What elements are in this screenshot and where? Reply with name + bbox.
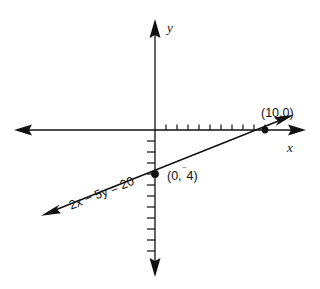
y-axis [147,19,161,277]
point-label-x-intercept: (10,0) [261,106,294,120]
svg-text:(0,⁻4): (0,⁻4) [167,164,198,183]
x-axis-ticks [166,125,265,131]
y-intercept-prefix: (0, [167,169,182,183]
coordinate-plane-figure: x y (10,0) (0,⁻4) 2x − 5y = 20 [0,0,320,289]
line-lower-left-arrowhead [41,205,61,216]
y-axis-label: y [165,20,173,35]
y-axis-ticks [147,141,155,251]
graph-canvas: x y (10,0) (0,⁻4) 2x − 5y = 20 [0,0,320,289]
x-axis-label: x [286,140,293,155]
point-label-y-intercept: (0,⁻4) [167,164,198,183]
equation-label: 2x − 5y = 20 [67,174,136,213]
point-marker-x-intercept [262,127,269,134]
point-marker-y-intercept [151,170,159,178]
y-intercept-value: 4) [187,169,198,183]
